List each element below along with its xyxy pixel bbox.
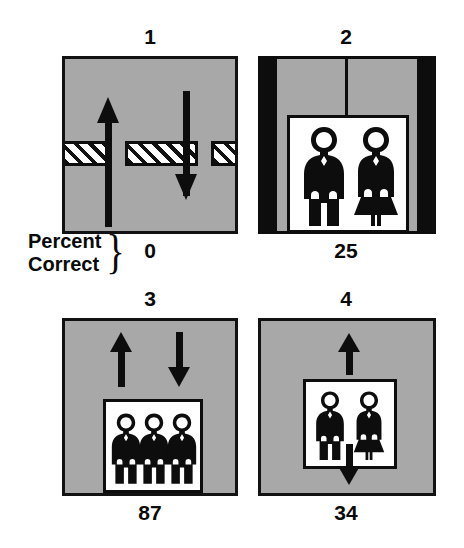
panel-3: 3 — [52, 286, 248, 526]
panel-1-number: 1 — [52, 24, 248, 50]
occupancy-sign — [287, 115, 409, 233]
panel-3-scene — [62, 318, 238, 496]
person-man-icon — [313, 390, 347, 462]
panel-4-score: 34 — [248, 500, 444, 526]
caption-line-percent: Percent — [28, 230, 101, 253]
panel-2-scene — [258, 56, 436, 234]
panel-2-number: 2 — [248, 24, 444, 50]
caption-line-correct: Correct — [28, 253, 101, 276]
person-man-icon — [300, 125, 348, 229]
panel-3-score: 87 — [52, 500, 248, 526]
percent-correct-caption: Percent Correct } — [28, 230, 127, 276]
panel-2-score: 25 — [248, 238, 444, 264]
person-woman-icon — [352, 390, 386, 462]
panel-2: 2 25 — [248, 24, 444, 264]
panel-3-number: 3 — [52, 286, 248, 312]
panel-4: 4 — [248, 286, 444, 526]
caption-brace: } — [107, 229, 125, 275]
hatched-band-segment-right — [211, 141, 238, 166]
person-man-icon — [165, 412, 199, 486]
panel-1: 1 0 — [52, 24, 248, 264]
panel-1-scene — [62, 56, 238, 234]
figure-root: 1 0 2 — [0, 0, 464, 548]
occupancy-sign — [103, 399, 203, 493]
panel-4-scene — [258, 318, 436, 496]
panel-4-number: 4 — [248, 286, 444, 312]
person-woman-icon — [352, 125, 400, 229]
